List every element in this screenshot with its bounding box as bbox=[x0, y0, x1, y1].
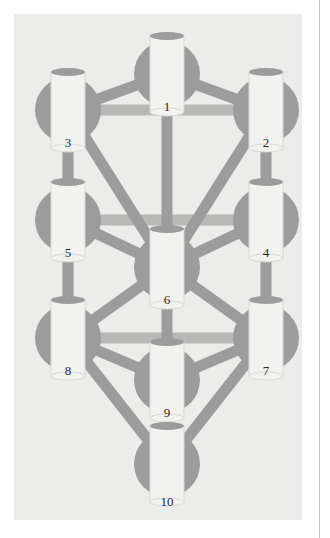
node-label-1: 1 bbox=[164, 100, 171, 113]
node-label-3: 3 bbox=[65, 136, 72, 149]
node-cylinder-top-10 bbox=[150, 422, 184, 430]
tree-of-life-diagram bbox=[14, 14, 302, 520]
node-cylinder-top-1 bbox=[150, 32, 184, 40]
node-label-6: 6 bbox=[164, 293, 171, 306]
node-label-7: 7 bbox=[263, 364, 270, 377]
node-cylinder-10 bbox=[150, 426, 184, 502]
node-cylinder-top-2 bbox=[249, 68, 283, 76]
node-cylinder-top-9 bbox=[150, 338, 184, 346]
node-cylinder-top-7 bbox=[249, 296, 283, 304]
node-label-5: 5 bbox=[65, 246, 72, 259]
page-edge-rule bbox=[319, 0, 320, 538]
node-cylinder-top-8 bbox=[51, 296, 85, 304]
node-label-9: 9 bbox=[164, 406, 171, 419]
node-cylinder-top-6 bbox=[150, 225, 184, 233]
node-cylinder-top-3 bbox=[51, 68, 85, 76]
node-label-2: 2 bbox=[263, 136, 270, 149]
node-cylinder-top-5 bbox=[51, 178, 85, 186]
node-label-8: 8 bbox=[65, 364, 72, 377]
page-root: 12345678910 bbox=[0, 0, 330, 538]
node-label-4: 4 bbox=[263, 246, 270, 259]
node-cylinder-top-4 bbox=[249, 178, 283, 186]
diagram-panel: 12345678910 bbox=[14, 14, 302, 520]
node-label-10: 10 bbox=[161, 495, 174, 508]
